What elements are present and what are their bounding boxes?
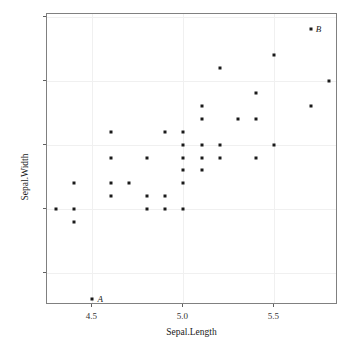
x-tick-mark-0: [91, 304, 92, 307]
x-tick-mark-2: [273, 304, 274, 307]
x-tick-label-2: 5.5: [268, 311, 279, 321]
x-tick-label-1: 5.0: [177, 311, 188, 321]
x-tick-label-0: 4.5: [86, 311, 97, 321]
scatter-plot-figure: AB 2.53.03.54.04.5 4.55.05.5 Sepal.Width…: [0, 0, 348, 354]
y-axis-label: Sepal.Width: [20, 154, 30, 201]
x-axis-ticks: 4.55.05.5: [0, 0, 348, 354]
x-tick-mark-1: [182, 304, 183, 307]
x-axis-label: Sepal.Length: [46, 327, 337, 337]
